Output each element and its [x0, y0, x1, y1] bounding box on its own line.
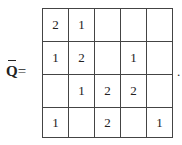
matrix-cell: 1 [43, 108, 69, 138]
equals-sign: = [18, 63, 26, 79]
matrix-cell [147, 42, 173, 75]
matrix-cell: 2 [95, 75, 121, 108]
matrix-cell [43, 75, 69, 108]
matrix-cell: 1 [43, 42, 69, 75]
matrix-table: 2 1 1 2 1 1 2 2 1 2 1 [42, 8, 173, 138]
matrix-cell [121, 9, 147, 42]
matrix-row: 1 2 1 [43, 42, 173, 75]
matrix-symbol: Q [6, 63, 18, 79]
matrix-cell [121, 108, 147, 138]
matrix-row: 1 2 1 [43, 108, 173, 138]
trailing-period: . [177, 64, 180, 80]
bar-accent [8, 60, 16, 61]
matrix-label: Q= [6, 62, 26, 80]
matrix-cell: 1 [121, 42, 147, 75]
matrix-cell [95, 9, 121, 42]
matrix-cell [69, 108, 95, 138]
matrix-cell: 1 [69, 75, 95, 108]
matrix-cell: 2 [95, 108, 121, 138]
matrix-cell [147, 75, 173, 108]
matrix-row: 2 1 [43, 9, 173, 42]
matrix-cell [95, 42, 121, 75]
matrix-cell: 1 [69, 9, 95, 42]
matrix-cell [147, 9, 173, 42]
matrix-row: 1 2 2 [43, 75, 173, 108]
matrix-cell: 2 [43, 9, 69, 42]
matrix-cell: 2 [69, 42, 95, 75]
matrix-cell: 1 [147, 108, 173, 138]
matrix-cell: 2 [121, 75, 147, 108]
